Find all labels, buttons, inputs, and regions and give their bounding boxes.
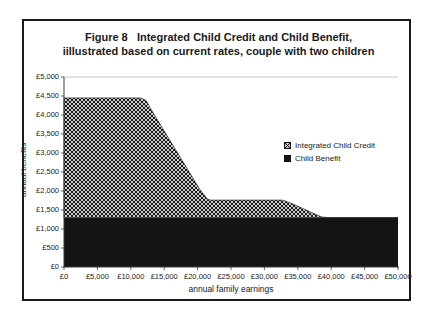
legend-swatch-solid-black-icon [284, 155, 291, 162]
legend-swatch-crosshatch-icon [284, 142, 291, 149]
legend-label: Integrated Child Credit [295, 141, 375, 150]
figure-8-chart: Figure 8 Integrated Child Credit and Chi… [0, 0, 443, 329]
area-child-benefit [64, 218, 398, 267]
y-tick-label: £5,000 [20, 72, 59, 82]
y-axis-title: annaul benefits [17, 110, 29, 230]
y-tick-label: £4,500 [20, 91, 59, 101]
chart-legend: Integrated Child CreditChild Benefit [284, 141, 375, 163]
y-tick-label: £0 [20, 262, 59, 272]
y-tick-label: £500 [20, 243, 59, 253]
legend-item: Child Benefit [284, 154, 375, 163]
x-tick-label: £50,000 [376, 272, 420, 282]
x-axis-title: annual family earnings [64, 284, 398, 294]
legend-label: Child Benefit [295, 154, 340, 163]
legend-item: Integrated Child Credit [284, 141, 375, 150]
